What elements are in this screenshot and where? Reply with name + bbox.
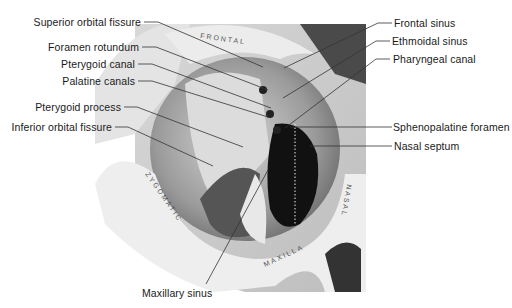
label-nasal-septum: Nasal septum [394, 140, 459, 152]
label-superior-orbital-fissure: Superior orbital fissure [34, 16, 141, 28]
label-foramen-rotundum: Foramen rotundum [48, 41, 139, 53]
label-pterygoid-canal: Pterygoid canal [61, 58, 135, 70]
label-pharyngeal-canal: Pharyngeal canal [393, 53, 476, 65]
label-maxillary-sinus: Maxillary sinus [142, 287, 212, 299]
label-sphenopalatine-foramen: Sphenopalatine foramen [393, 121, 510, 133]
label-pterygoid-process: Pterygoid process [35, 101, 121, 113]
label-palatine-canals: Palatine canals [62, 75, 135, 87]
label-ethmoidal-sinus: Ethmoidal sinus [392, 35, 468, 47]
label-inferior-orbital-fissure: Inferior orbital fissure [12, 121, 112, 133]
label-frontal-sinus: Frontal sinus [394, 17, 455, 29]
